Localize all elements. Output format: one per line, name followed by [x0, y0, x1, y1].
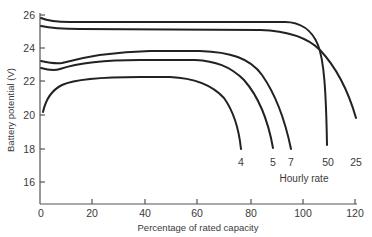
y-axis-title: Battery potential (V) — [5, 68, 16, 152]
curve-label-50: 50 — [322, 156, 334, 168]
x-tick-label: 40 — [139, 207, 151, 219]
curve-labels: 4 5 7 50 25 Hourly rate — [238, 156, 362, 184]
battery-discharge-chart: 26 24 22 20 18 16 0 20 40 60 80 100 120 … — [0, 0, 372, 237]
x-ticks: 0 20 40 60 80 100 120 — [38, 199, 364, 219]
x-tick-label: 20 — [86, 207, 98, 219]
y-tick-label: 18 — [23, 143, 35, 155]
curve-4h — [43, 77, 241, 149]
curve-7h — [41, 51, 291, 149]
x-tick-label: 100 — [294, 207, 312, 219]
curve-25h — [41, 26, 356, 118]
x-axis-title: Percentage of rated capacity — [138, 222, 259, 233]
y-tick-label: 16 — [23, 176, 35, 188]
legend-title: Hourly rate — [280, 173, 329, 184]
curve-label-25: 25 — [350, 156, 362, 168]
y-ticks: 26 24 22 20 18 16 — [23, 9, 45, 188]
x-tick-label: 120 — [346, 207, 364, 219]
y-tick-label: 26 — [23, 9, 35, 21]
y-tick-label: 22 — [23, 75, 35, 87]
x-tick-label: 60 — [191, 207, 203, 219]
x-tick-label: 80 — [245, 207, 257, 219]
curves — [41, 18, 356, 149]
curve-label-5: 5 — [270, 156, 276, 168]
curve-label-4: 4 — [238, 156, 244, 168]
curve-label-7: 7 — [288, 156, 294, 168]
y-tick-label: 24 — [23, 42, 35, 54]
y-tick-label: 20 — [23, 109, 35, 121]
curve-50h — [41, 18, 327, 145]
x-tick-label: 0 — [38, 207, 44, 219]
